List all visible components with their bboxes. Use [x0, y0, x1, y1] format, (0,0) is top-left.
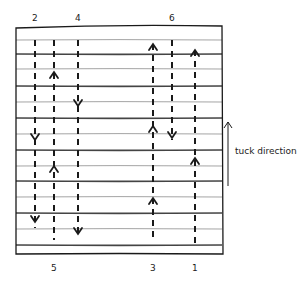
- fabric-frame: [16, 25, 223, 254]
- arrow-up-icon: [50, 166, 58, 172]
- arrow-up-icon: [149, 126, 157, 132]
- column-label-6: 6: [169, 14, 175, 23]
- diagram-canvas: [0, 0, 302, 281]
- column-label-5: 5: [51, 264, 57, 273]
- column-label-4: 4: [75, 14, 81, 23]
- arrow-down-icon: [31, 134, 39, 140]
- tuck-diagram: 254361 tuck direction: [0, 0, 302, 281]
- tuck-direction-label: tuck direction: [235, 146, 297, 156]
- column-label-1: 1: [192, 264, 198, 273]
- column-label-2: 2: [32, 14, 38, 23]
- column-label-3: 3: [150, 264, 156, 273]
